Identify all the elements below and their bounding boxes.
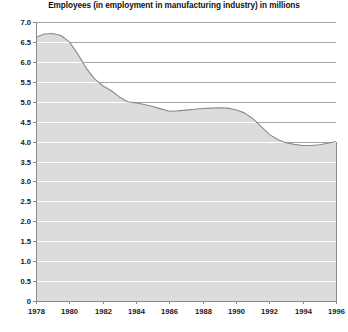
y-tick-label: 0.5 [20, 277, 31, 286]
x-tick-label: 1994 [295, 307, 313, 316]
y-tick-label: 3.5 [20, 158, 31, 167]
x-tick-label: 1990 [228, 307, 245, 316]
area-chart-plot: 7.06.56.05.55.04.54.03.53.02.52.01.51.00… [0, 0, 348, 332]
y-tick-label: 0 [27, 297, 31, 306]
x-axis-ticks-group: 1978198019821984198619881990199219941996 [28, 301, 345, 316]
x-tick-label: 1988 [195, 307, 212, 316]
area-series-group [36, 23, 336, 302]
y-tick-label: 4.0 [20, 138, 31, 147]
y-tick-label: 4.5 [20, 118, 31, 127]
y-tick-label: 6.5 [20, 38, 31, 47]
y-tick-label: 5.0 [20, 98, 31, 107]
x-tick-label: 1978 [28, 307, 45, 316]
x-tick-label: 1996 [328, 307, 345, 316]
chart-container: Employees (in employment in manufacturin… [0, 0, 348, 332]
x-tick-label: 1992 [261, 307, 278, 316]
x-tick-label: 1982 [95, 307, 112, 316]
y-tick-label: 1.5 [20, 237, 31, 246]
x-tick-label: 1986 [161, 307, 178, 316]
x-tick-label: 1980 [61, 307, 78, 316]
y-tick-label: 2.5 [20, 197, 31, 206]
y-tick-label: 1.0 [20, 257, 31, 266]
y-tick-label: 5.5 [20, 78, 31, 87]
x-tick-label: 1984 [128, 307, 146, 316]
y-tick-label: 6.0 [20, 58, 31, 67]
y-tick-label: 7.0 [20, 18, 31, 27]
y-tick-label: 3.0 [20, 177, 31, 186]
y-axis-ticks-group: 7.06.56.05.55.04.54.03.53.02.52.01.51.00… [20, 18, 36, 306]
area-fill [36, 34, 336, 301]
y-tick-label: 2.0 [20, 217, 31, 226]
